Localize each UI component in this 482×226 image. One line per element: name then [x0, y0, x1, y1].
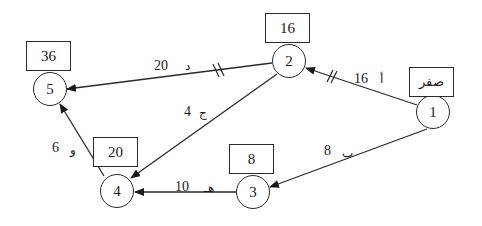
node-5-label: 5: [46, 81, 54, 98]
edge-1-3-duration: 8: [324, 144, 331, 158]
edge-1-3-activity: ب: [342, 146, 353, 160]
node-3: 3: [236, 175, 270, 209]
edge-3-4-activity: هـ: [204, 181, 214, 195]
node-2-label: 2: [285, 53, 293, 70]
time-value: 36: [41, 48, 56, 65]
node-5: 5: [33, 72, 67, 106]
edge-4-5-duration: 6: [52, 141, 59, 155]
edge-4-5-activity: و: [70, 143, 76, 157]
time-value: صفر: [419, 74, 444, 90]
edge-2-5-activity: د: [185, 59, 190, 73]
time-value: 20: [108, 144, 123, 161]
edge-2-5: [67, 63, 272, 89]
edge-2-5-duration: 20: [154, 59, 168, 73]
node-4: 4: [100, 174, 134, 208]
node-2: 2: [272, 44, 306, 78]
edge-1-2-activity: أ: [380, 72, 383, 86]
edge-1-2-duration: 16: [354, 72, 368, 86]
time-box-node-3: 8: [229, 144, 274, 174]
edge-2-4-activity: ج: [199, 106, 207, 120]
time-box-node-1: صفر: [409, 67, 454, 97]
time-box-node-2: 16: [265, 13, 310, 43]
time-value: 8: [248, 151, 256, 168]
node-1-label: 1: [429, 104, 437, 121]
node-1: 1: [416, 95, 450, 129]
time-box-node-4: 20: [93, 137, 138, 167]
edge-2-4-duration: 4: [184, 105, 191, 119]
node-4-label: 4: [113, 183, 121, 200]
time-value: 16: [280, 20, 295, 37]
time-box-node-5: 36: [26, 41, 71, 71]
edge-3-4-duration: 10: [175, 180, 189, 194]
node-3-label: 3: [249, 184, 257, 201]
